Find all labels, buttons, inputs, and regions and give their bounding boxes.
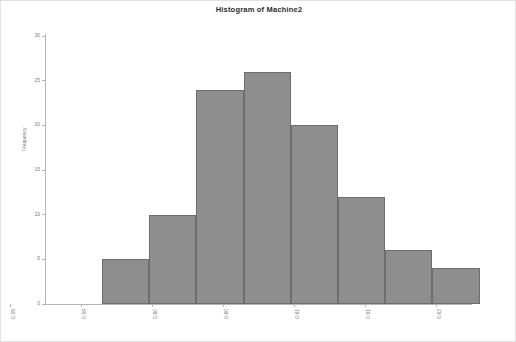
- x-axis-line: [45, 304, 472, 305]
- histogram-bar: [149, 215, 196, 304]
- x-tick-mark: [294, 304, 295, 307]
- x-tick-label: 0.61: [365, 309, 371, 319]
- x-tick-label: 0.61: [294, 309, 300, 319]
- histogram-bar: [432, 268, 479, 304]
- x-tick-mark: [223, 304, 224, 307]
- x-tick-mark: [81, 304, 82, 307]
- x-tick-label: 0.59: [81, 309, 87, 319]
- x-tick-label: 0.60: [152, 309, 158, 319]
- histogram-bars: [1, 1, 516, 304]
- x-tick-label: 0.59: [10, 309, 16, 319]
- histogram-bar: [196, 90, 243, 304]
- x-tick-mark: [10, 304, 11, 307]
- x-tick-mark: [152, 304, 153, 307]
- histogram-bar: [244, 72, 291, 304]
- chart-page: Histogram of Machine2 Frequency 05101520…: [0, 0, 516, 342]
- x-tick-mark: [436, 304, 437, 307]
- histogram-bar: [291, 125, 338, 304]
- histogram-bar: [102, 259, 149, 304]
- histogram-bar: [385, 250, 432, 304]
- x-tick-label: 0.62: [436, 309, 442, 319]
- histogram-bar: [338, 197, 385, 304]
- x-tick-mark: [365, 304, 366, 307]
- x-tick-label: 0.60: [223, 309, 229, 319]
